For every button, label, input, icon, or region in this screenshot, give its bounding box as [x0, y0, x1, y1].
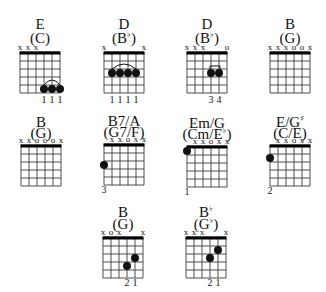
muted-string-icon: x	[282, 43, 290, 51]
finger-dot	[123, 262, 131, 270]
chord-diagram-e-gsharp: E/G♯ (C/E) xxoxx2	[270, 146, 310, 186]
muted-string-icon: x	[25, 136, 33, 144]
fretboard-grid	[182, 48, 232, 98]
muted-string-icon: x	[16, 43, 24, 51]
muted-string-icon: x	[99, 228, 107, 236]
finger-dot	[100, 161, 108, 169]
muted-string-icon: x	[191, 137, 199, 145]
muted-string-icon: x	[32, 43, 40, 51]
muted-string-icon: x	[140, 135, 148, 143]
chord-diagram-b-g-fretted: B (G) xoxx21	[103, 238, 143, 278]
chord-diagram-b-g: B (G) xxooox	[21, 146, 61, 186]
chord-diagram-d-bflat: D (B♭) xxxo34	[187, 53, 227, 93]
fretboard-grid	[99, 48, 149, 98]
finger-number: 4	[215, 95, 223, 105]
finger-dot	[48, 85, 56, 93]
finger-number: 1	[214, 278, 222, 288]
finger-dot	[132, 69, 140, 77]
finger-dot	[40, 85, 48, 93]
finger-number: 1	[183, 187, 191, 197]
finger-number: 3	[207, 95, 215, 105]
finger-number: 1	[108, 95, 116, 105]
nut	[104, 51, 145, 54]
muted-string-icon: x	[215, 137, 223, 145]
fretboard-grid	[98, 233, 148, 283]
finger-number: 1	[48, 95, 56, 105]
finger-number: 1	[116, 95, 124, 105]
chord-diagram-e-c: E (C) xxx111	[20, 53, 60, 93]
open-string-icon: o	[49, 136, 57, 144]
muted-string-icon: x	[108, 135, 116, 143]
muted-string-icon: x	[223, 137, 231, 145]
open-string-icon: o	[124, 135, 132, 143]
chord-alt-name: (B♭)	[167, 31, 247, 46]
fretboard-grid	[181, 233, 231, 283]
muted-string-icon: x	[115, 228, 123, 236]
chord-alt-name: (B♭)	[84, 31, 164, 46]
chord-diagram-b7-a: B7/A (G7/F) xxoxx3	[104, 145, 144, 185]
chord-diagram-d-bflat-barre: D (B♭) xx1111	[104, 53, 144, 93]
chord-alt-name: (G)	[83, 217, 163, 232]
finger-number: 1	[131, 278, 139, 288]
open-string-icon: o	[290, 43, 298, 51]
muted-string-icon: x	[183, 43, 191, 51]
finger-dot	[108, 69, 116, 77]
finger-dot	[206, 254, 214, 262]
finger-number: 2	[206, 278, 214, 288]
muted-string-icon: x	[139, 228, 147, 236]
finger-dot	[56, 85, 64, 93]
muted-string-icon: x	[191, 43, 199, 51]
muted-string-icon: x	[222, 228, 230, 236]
muted-string-icon: x	[57, 136, 65, 144]
muted-string-icon: x	[199, 137, 207, 145]
muted-string-icon: x	[306, 136, 314, 144]
muted-string-icon: x	[298, 136, 306, 144]
fretboard-grid	[99, 140, 149, 190]
chord-diagram-b-g-open: B (G) xxxoox	[270, 53, 310, 93]
open-string-icon: o	[33, 136, 41, 144]
finger-number: 3	[100, 185, 108, 195]
fretboard-grid	[16, 141, 66, 191]
open-string-icon: o	[41, 136, 49, 144]
muted-string-icon: x	[282, 136, 290, 144]
chord-diagram-em-g: Em/G (Cm/E♭) xxoxx1	[187, 147, 227, 187]
muted-string-icon: x	[17, 136, 25, 144]
muted-string-icon: x	[182, 228, 190, 236]
muted-string-icon: x	[198, 228, 206, 236]
muted-string-icon: x	[24, 43, 32, 51]
finger-number: 1	[56, 95, 64, 105]
muted-string-icon: x	[274, 136, 282, 144]
chord-alt-name: (G♭)	[166, 217, 246, 232]
finger-dot	[215, 69, 223, 77]
muted-string-icon: x	[199, 43, 207, 51]
finger-number: 1	[132, 95, 140, 105]
fretboard-grid	[182, 142, 232, 192]
fretboard-grid	[265, 48, 315, 98]
finger-number: 1	[124, 95, 132, 105]
finger-dot	[183, 147, 191, 155]
muted-string-icon: x	[306, 43, 314, 51]
muted-string-icon: x	[116, 135, 124, 143]
muted-string-icon: x	[100, 43, 108, 51]
muted-string-icon: x	[140, 43, 148, 51]
muted-string-icon: x	[266, 43, 274, 51]
open-string-icon: o	[207, 137, 215, 145]
open-string-icon: o	[290, 136, 298, 144]
finger-dot	[266, 154, 274, 162]
chord-alt-name: (C)	[0, 31, 80, 46]
finger-dot	[116, 69, 124, 77]
finger-number: 2	[266, 186, 274, 196]
finger-dot	[124, 69, 132, 77]
muted-string-icon: x	[132, 135, 140, 143]
chord-diagram-bflat-gflat: B♭ (G♭) xxxx21	[186, 238, 226, 278]
open-string-icon: o	[223, 43, 231, 51]
fretboard-grid	[265, 141, 315, 191]
finger-dot	[207, 69, 215, 77]
finger-dot	[214, 246, 222, 254]
finger-number: 2	[123, 278, 131, 288]
finger-number: 1	[40, 95, 48, 105]
fretboard-grid	[15, 48, 65, 98]
open-string-icon: o	[298, 43, 306, 51]
finger-dot	[131, 254, 139, 262]
muted-string-icon: x	[274, 43, 282, 51]
